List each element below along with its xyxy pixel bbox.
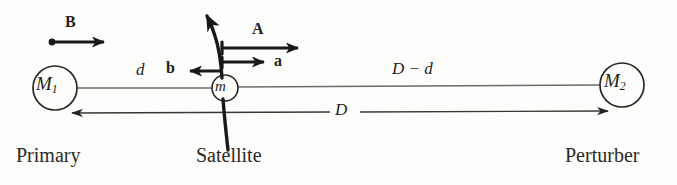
- distance-D-label: D: [331, 101, 351, 118]
- segment-D-minus-d-line: [238, 85, 600, 87]
- D-arrow-right-half: [360, 111, 608, 112]
- satellite-caption: Satellite: [196, 145, 262, 165]
- distance-D-minus-d-label: D − d: [392, 60, 433, 77]
- orbit-path-upper: [207, 16, 222, 78]
- perturber-mass-subscript: 2: [620, 80, 626, 93]
- vector-B-group: [49, 39, 104, 46]
- primary-caption: Primary: [16, 145, 80, 165]
- vector-A-label: A: [252, 21, 264, 37]
- primary-mass-label: M1: [36, 74, 58, 96]
- physics-diagram: M1 M2 m d D − d D A a b B Primary Satell…: [0, 0, 677, 185]
- primary-mass-subscript: 1: [52, 83, 58, 96]
- vector-b-label: b: [166, 60, 175, 76]
- distance-d-label: d: [136, 61, 145, 78]
- satellite-mass-label: m: [215, 79, 226, 94]
- vector-B-label: B: [65, 14, 76, 30]
- D-arrow-left-half: [72, 112, 330, 113]
- vector-a-label: a: [274, 53, 282, 69]
- orbit-path-lower: [223, 99, 228, 150]
- perturber-caption: Perturber: [565, 145, 639, 165]
- vector-a-group: [222, 57, 264, 68]
- separation-line-group: [77, 85, 600, 88]
- perturber-mass-label: M2: [604, 71, 626, 93]
- vector-A-group: [222, 42, 298, 54]
